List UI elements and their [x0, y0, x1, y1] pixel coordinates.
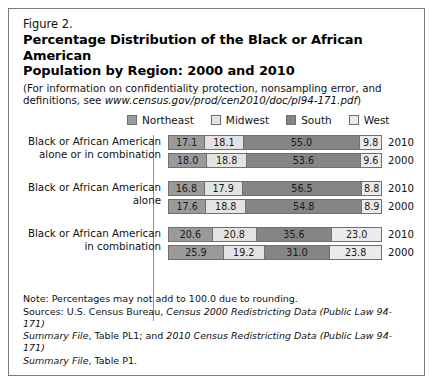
- bar-group-label: Black or African American alone: [23, 181, 161, 207]
- bar-row: 17.1 18.1 55.0 9.8 2010: [168, 135, 414, 150]
- bar-segment-midwest[interactable]: 19.2: [224, 246, 265, 259]
- bar-segment-west[interactable]: 8.8: [362, 182, 381, 195]
- legend-label-west: West: [364, 114, 390, 126]
- bar-row: 20.6 20.8 35.6 23.0 2010: [168, 227, 414, 242]
- bar-segment-midwest[interactable]: 18.1: [205, 136, 243, 149]
- bar-segment-midwest[interactable]: 17.9: [205, 182, 243, 195]
- figure-subtitle-line1: (For information on confidentiality prot…: [23, 82, 382, 94]
- bar-segment-south[interactable]: 55.0: [244, 136, 361, 149]
- figure-subtitle: (For information on confidentiality prot…: [23, 82, 412, 107]
- bar-group-label-line1: Black or African American: [23, 135, 161, 148]
- bar-segment-south[interactable]: 31.0: [265, 246, 331, 259]
- bar-row-year-label: 2000: [388, 245, 414, 260]
- stacked-bar-track: 17.1 18.1 55.0 9.8: [168, 135, 382, 150]
- bar-segment-northeast[interactable]: 20.6: [169, 228, 213, 241]
- figure-footer: Note: Percentages may not add to 100.0 d…: [9, 293, 424, 367]
- bar-segment-south[interactable]: 53.6: [247, 154, 361, 167]
- bar-group-label: Black or African American alone or in co…: [23, 135, 161, 161]
- bar-group-in-combination: Black or African American in combination…: [23, 227, 414, 260]
- bar-segment-west[interactable]: 9.6: [361, 154, 381, 167]
- footer-note: Note: Percentages may not add to 100.0 d…: [23, 293, 412, 305]
- legend-label-northeast: Northeast: [142, 114, 194, 126]
- bar-group-label-line1: Black or African American: [23, 181, 161, 194]
- legend-swatch-south: [286, 115, 296, 125]
- bar-segment-northeast[interactable]: 17.6: [169, 200, 206, 213]
- bar-segment-west[interactable]: 8.9: [362, 200, 381, 213]
- chart-plot-area: Black or African American alone or in co…: [9, 135, 424, 260]
- bar-row-year-label: 2010: [388, 135, 414, 150]
- figure-subtitle-line2-prefix: definitions, see: [23, 94, 105, 106]
- bar-segment-south[interactable]: 56.5: [243, 182, 363, 195]
- stacked-bar-track: 20.6 20.8 35.6 23.0: [168, 227, 382, 242]
- bar-segment-northeast[interactable]: 18.0: [169, 154, 207, 167]
- bar-row-year-label: 2010: [388, 181, 414, 196]
- bar-segment-south[interactable]: 35.6: [257, 228, 332, 241]
- bar-row-year-label: 2000: [388, 199, 414, 214]
- bar-row: 16.8 17.9 56.5 8.8 2010: [168, 181, 414, 196]
- bar-group-label: Black or African American in combination: [23, 227, 161, 253]
- bar-group-label-line2: alone or in combination: [23, 148, 161, 161]
- bar-segment-midwest[interactable]: 18.8: [207, 154, 247, 167]
- legend-item-south: South: [286, 114, 332, 126]
- bar-group-alone: Black or African American alone 16.8 17.…: [23, 181, 414, 214]
- figure-subtitle-line2-suffix: ): [357, 94, 361, 106]
- bar-segment-west[interactable]: 23.8: [330, 246, 380, 259]
- bar-group-label-line2: alone: [23, 194, 161, 207]
- legend-item-midwest: Midwest: [211, 114, 269, 126]
- stacked-bar-track: 17.6 18.8 54.8 8.9: [168, 199, 382, 214]
- chart-legend: Northeast Midwest South West: [9, 113, 424, 127]
- bar-group-bars: 16.8 17.9 56.5 8.8 2010 17.6 18.8 54.8 8…: [168, 181, 414, 214]
- bar-segment-midwest[interactable]: 18.8: [206, 200, 246, 213]
- legend-label-south: South: [301, 114, 332, 126]
- bar-segment-northeast[interactable]: 16.8: [169, 182, 205, 195]
- stacked-bar-track: 25.9 19.2 31.0 23.8: [168, 245, 382, 260]
- bar-segment-west[interactable]: 9.8: [360, 136, 381, 149]
- figure-number: Figure 2.: [23, 17, 412, 31]
- figure-title-line1: Percentage Distribution of the Black or …: [23, 32, 363, 63]
- bar-segment-northeast[interactable]: 17.1: [169, 136, 205, 149]
- bar-row-year-label: 2010: [388, 227, 414, 242]
- bar-row-year-label: 2000: [388, 153, 414, 168]
- figure-title-line2: Population by Region: 2000 and 2010: [23, 63, 295, 78]
- bar-group-bars: 20.6 20.8 35.6 23.0 2010 25.9 19.2 31.0 …: [168, 227, 414, 260]
- footer-sources-summary-file-1: Summary File: [23, 330, 89, 341]
- footer-sources: Sources: U.S. Census Bureau, Census 2000…: [23, 306, 412, 367]
- bar-segment-northeast[interactable]: 25.9: [169, 246, 224, 259]
- stacked-bar-track: 16.8 17.9 56.5 8.8: [168, 181, 382, 196]
- footer-sources-summary-file-2: Summary File: [23, 355, 89, 366]
- bar-row: 18.0 18.8 53.6 9.6 2000: [168, 153, 414, 168]
- bar-segment-midwest[interactable]: 20.8: [213, 228, 257, 241]
- bar-group-label-line2: in combination: [23, 240, 161, 253]
- legend-item-west: West: [349, 114, 390, 126]
- figure-title: Percentage Distribution of the Black or …: [23, 32, 412, 79]
- legend-swatch-west: [349, 115, 359, 125]
- figure-frame: Figure 2. Percentage Distribution of the…: [8, 8, 425, 376]
- bar-group-alone-or-in-combination: Black or African American alone or in co…: [23, 135, 414, 168]
- figure-header: Figure 2. Percentage Distribution of the…: [9, 9, 424, 107]
- bar-segment-west[interactable]: 23.0: [332, 228, 381, 241]
- footer-sources-prefix: Sources: U.S. Census Bureau,: [23, 306, 166, 317]
- legend-swatch-northeast: [127, 115, 137, 125]
- bar-group-label-line1: Black or African American: [23, 227, 161, 240]
- stacked-bar-track: 18.0 18.8 53.6 9.6: [168, 153, 382, 168]
- bar-segment-south[interactable]: 54.8: [246, 200, 362, 213]
- footer-sources-mid: , Table PL1; and: [89, 330, 167, 341]
- legend-item-northeast: Northeast: [127, 114, 194, 126]
- footer-sources-end: , Table P1.: [89, 355, 137, 366]
- bar-group-bars: 17.1 18.1 55.0 9.8 2010 18.0 18.8 53.6 9…: [168, 135, 414, 168]
- legend-swatch-midwest: [211, 115, 221, 125]
- bar-row: 25.9 19.2 31.0 23.8 2000: [168, 245, 414, 260]
- legend-label-midwest: Midwest: [226, 114, 269, 126]
- figure-subtitle-url[interactable]: www.census.gov/prod/cen2010/doc/pl94-171…: [105, 94, 357, 106]
- bar-row: 17.6 18.8 54.8 8.9 2000: [168, 199, 414, 214]
